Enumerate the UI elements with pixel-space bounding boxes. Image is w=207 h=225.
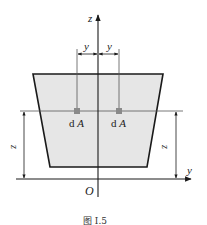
right-z-dimension-label: z <box>160 144 171 149</box>
right-dA-label: d A <box>111 117 126 129</box>
right-y-dimension-label: y <box>106 40 112 52</box>
left-z-dimension-label: z <box>9 144 20 149</box>
left-dA-label: d A <box>69 117 84 129</box>
cross-section-diagram: z y y d A d A z z y O 图 Ⅰ.5 <box>0 0 207 225</box>
y-axis-label: y <box>186 164 192 176</box>
figure-caption: 图 Ⅰ.5 <box>83 216 107 225</box>
origin-label: O <box>85 184 94 198</box>
right-area-element <box>116 108 122 114</box>
left-area-element <box>74 108 80 114</box>
z-axis-label: z <box>87 12 93 24</box>
left-y-dimension-label: y <box>83 40 89 52</box>
